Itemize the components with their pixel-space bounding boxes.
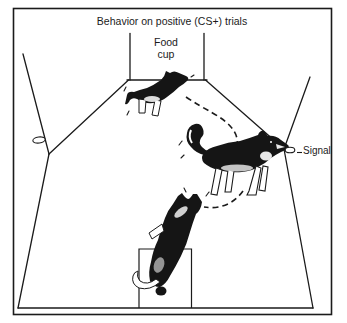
signal-group: Signal xyxy=(285,145,331,156)
dog2-hind-leg-near xyxy=(211,168,222,195)
signal-label: Signal xyxy=(303,145,331,156)
dog1-belly-patch xyxy=(144,96,160,102)
food-cup-label: Food cup xyxy=(154,36,178,60)
food-cup-label-line1: Food xyxy=(154,36,178,48)
floor-right-edge xyxy=(284,149,313,308)
path-signal-to-platform xyxy=(204,191,243,208)
left-wall-disk-icon xyxy=(32,136,45,144)
dog2-eye xyxy=(270,141,272,143)
dog2-belly-patch xyxy=(221,165,253,172)
figure-panel: Behavior on positive (CS+) trials Food c… xyxy=(0,0,347,323)
right-wall-top-edge xyxy=(284,77,310,149)
dog1-hind-leg xyxy=(139,99,146,113)
dog-at-food-cup-icon xyxy=(125,71,188,116)
floor-left-edge xyxy=(18,154,49,308)
figure-title: Behavior on positive (CS+) trials xyxy=(97,15,247,27)
dog3-body xyxy=(149,193,202,287)
floor-back-left-edge xyxy=(49,80,129,154)
dog-touching-signal-icon xyxy=(187,124,289,195)
dog3-tail-tip xyxy=(156,287,167,296)
dog2-hind-leg-far xyxy=(225,170,234,192)
food-cup-label-line2: cup xyxy=(158,48,175,60)
signal-disk-icon xyxy=(285,147,295,153)
diagram-canvas: Behavior on positive (CS+) trials Food c… xyxy=(0,0,347,323)
dog2-chest-patch xyxy=(260,152,272,161)
